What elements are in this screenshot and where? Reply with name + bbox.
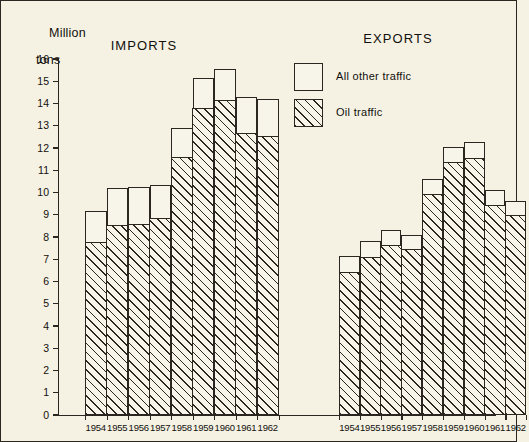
bar-exports-1957 [401,235,422,415]
y-axis-tick-mark [53,192,59,193]
bar-exports-1954 [339,256,360,415]
y-axis-title-line1: Million [49,26,86,40]
x-axis-tick-mark [526,415,527,420]
y-axis-tick-label: 1 [9,387,49,397]
exports-panel-title: EXPORTS [338,31,458,46]
bar-segment-oil-traffic [171,157,193,415]
y-axis-tick-label: 8 [9,232,49,242]
bar-segment-oil-traffic [360,257,381,415]
bar-imports-1956 [128,187,150,415]
bar-segment-oil-traffic [85,242,107,416]
y-axis-tick-mark [53,236,59,237]
x-axis-tick-label: 1962 [502,423,529,433]
bar-imports-1957 [150,185,172,415]
x-axis-tick-mark [422,415,423,420]
bar-imports-1962 [257,99,279,415]
x-axis-tick-label: 1962 [254,423,282,433]
y-axis-tick-mark [53,81,59,82]
y-axis-tick-mark [53,170,59,171]
y-axis-tick-mark [53,214,59,215]
bar-segment-oil-traffic [214,100,236,415]
bar-segment-oil-traffic [443,162,464,416]
bar-segment-oil-traffic [128,224,150,415]
bar-segment-oil-traffic [235,133,257,416]
bar-imports-1955 [107,188,129,415]
y-axis-tick-mark [53,348,59,349]
bar-imports-1960 [214,69,236,415]
x-axis-tick-mark [360,415,361,420]
y-axis-tick-label: 14 [9,98,49,108]
y-axis-tick-label: 16 [9,54,49,64]
y-axis-tick-mark [53,259,59,260]
y-axis-tick-label: 15 [9,76,49,86]
bar-exports-1961 [485,190,506,415]
legend-swatch-other-icon [294,63,323,91]
imports-panel-title: IMPORTS [84,38,204,53]
y-axis-tick-label: 9 [9,209,49,219]
y-axis-tick-label: 11 [9,165,49,175]
y-axis-tick-mark [53,103,59,104]
x-axis-tick-mark [464,415,465,420]
bar-segment-oil-traffic [257,136,279,415]
bar-imports-1961 [236,97,258,415]
bar-exports-1962 [505,201,526,415]
chart-plot-area: Million tons IMPORTS EXPORTS 16151413121… [1,1,518,442]
bar-imports-1959 [193,78,215,415]
y-axis-tick-mark [53,325,59,326]
x-axis-tick-mark [171,415,172,420]
bar-imports-1958 [171,128,193,415]
y-axis-tick-label: 4 [9,321,49,331]
x-axis-tick-mark [443,415,444,420]
bar-segment-oil-traffic [192,108,214,415]
x-axis-tick-mark [107,415,108,420]
x-axis-tick-mark [257,415,258,420]
y-axis-tick-mark [53,58,59,59]
x-axis-tick-mark [505,415,506,420]
bar-segment-oil-traffic [106,225,128,415]
x-axis-tick-mark [128,415,129,420]
bar-imports-1954 [85,211,107,415]
x-axis-tick-mark [485,415,486,420]
y-axis-tick-mark [53,370,59,371]
legend-item-label: All other traffic [336,70,411,82]
bar-segment-oil-traffic [380,245,401,415]
x-axis-tick-mark [339,415,340,420]
bar-exports-1955 [360,241,381,415]
x-axis-tick-mark [193,415,194,420]
x-axis-tick-mark [150,415,151,420]
y-axis-tick-mark [53,303,59,304]
y-axis-tick-mark [53,392,59,393]
x-axis-tick-mark [85,415,86,420]
bar-segment-oil-traffic [149,218,171,415]
y-axis-tick-label: 5 [9,298,49,308]
x-axis-tick-mark [401,415,402,420]
y-axis-tick-label: 2 [9,365,49,375]
x-axis-tick-mark [214,415,215,420]
bar-exports-1958 [422,179,443,415]
y-axis-tick-label: 10 [9,187,49,197]
legend-item-label: Oil traffic [336,106,383,118]
y-axis-tick-label: 6 [9,276,49,286]
bar-exports-1960 [464,142,485,415]
legend-swatch-oil-icon [294,99,323,127]
x-axis-tick-mark [279,415,280,420]
bar-exports-1956 [381,230,402,415]
y-axis-tick-mark [53,281,59,282]
bar-exports-1959 [443,147,464,415]
bar-segment-oil-traffic [339,272,360,416]
bar-segment-oil-traffic [401,249,422,415]
y-axis-tick-label: 7 [9,254,49,264]
x-axis-tick-mark [236,415,237,420]
y-axis-tick-mark [53,125,59,126]
bar-segment-oil-traffic [464,158,485,415]
bar-segment-oil-traffic [484,205,505,415]
bar-segment-oil-traffic [422,194,443,415]
bar-segment-oil-traffic [505,215,526,415]
x-axis-tick-mark [381,415,382,420]
y-axis-tick-label: 3 [9,343,49,353]
y-axis-tick-label: 13 [9,120,49,130]
y-axis-tick-mark [53,414,59,415]
y-axis-tick-label: 0 [9,410,49,420]
y-axis-tick-label: 12 [9,143,49,153]
